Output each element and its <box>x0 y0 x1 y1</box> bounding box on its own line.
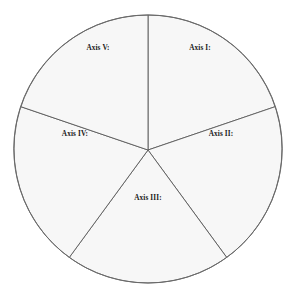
axis-wheel-svg <box>0 0 292 297</box>
axis-label-v: Axis V: <box>86 45 109 52</box>
axis-label-iii: Axis III: <box>134 195 162 202</box>
axis-label-i: Axis I: <box>189 45 211 52</box>
axis-wheel-figure: Axis I: Axis II: Axis III: Axis IV: Axis… <box>0 0 292 297</box>
axis-label-ii: Axis II: <box>209 131 234 138</box>
axis-label-iv: Axis IV: <box>62 131 88 138</box>
